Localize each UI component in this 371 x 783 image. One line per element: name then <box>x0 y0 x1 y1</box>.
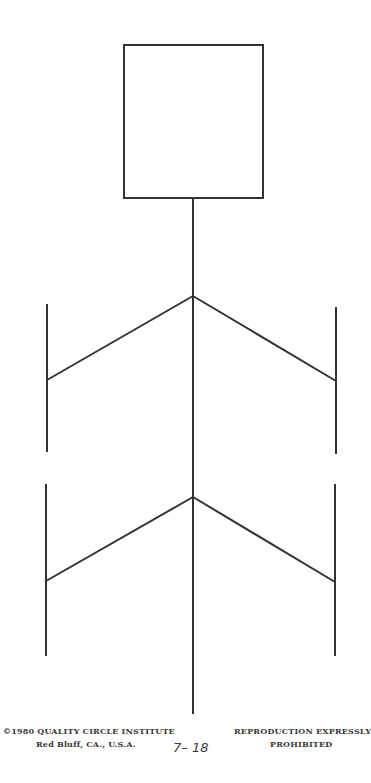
publisher-location: Red Bluff, CA., U.S.A. <box>36 739 136 749</box>
effect-box <box>124 45 263 198</box>
copyright-notice: ©1980 QUALITY CIRCLE INSTITUTE <box>3 726 175 736</box>
reproduction-notice-line-2: PROHIBITED <box>270 739 332 749</box>
lower-left-rib <box>46 497 193 581</box>
page-number: 7– 18 <box>173 740 208 755</box>
lower-right-rib <box>193 497 335 582</box>
upper-right-rib <box>193 296 336 381</box>
upper-left-rib <box>47 296 193 380</box>
reproduction-notice-line-1: REPRODUCTION EXPRESSLY <box>234 726 371 736</box>
